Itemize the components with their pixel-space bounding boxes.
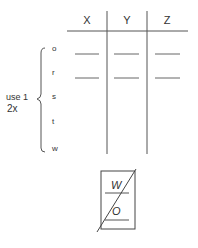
brace-note-line2: 2x (7, 104, 18, 114)
column-header-x: X (77, 14, 97, 26)
curly-brace (37, 48, 45, 152)
row-label-r: r (52, 68, 55, 77)
row-label-o: o (52, 44, 56, 53)
box-bottom-letter: O (112, 205, 121, 217)
diagram-canvas (0, 0, 198, 248)
column-header-z: Z (157, 14, 177, 26)
brace-note-line1: use 1 (6, 92, 28, 102)
row-label-t: t (52, 117, 54, 126)
row-label-w: w (52, 144, 58, 153)
row-label-s: s (52, 92, 56, 101)
column-header-y: Y (117, 14, 137, 26)
box-top-letter: W (111, 179, 121, 191)
